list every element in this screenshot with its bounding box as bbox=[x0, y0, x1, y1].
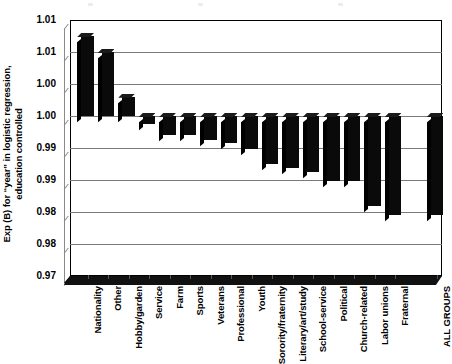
x-axis-tick-labels: NationalityOtherHobby/gardenServiceFarmS… bbox=[64, 286, 442, 360]
x-axis-tick bbox=[129, 275, 130, 279]
bar-side-face bbox=[282, 119, 286, 175]
bar-side-face bbox=[385, 119, 389, 221]
bar-top-face bbox=[344, 113, 361, 117]
x-axis-tick bbox=[190, 275, 191, 279]
bar bbox=[327, 116, 340, 181]
bar-top-face bbox=[385, 113, 402, 117]
y-axis-depth-tick bbox=[64, 184, 69, 190]
y-axis-tick-label: 1.01 bbox=[37, 47, 56, 57]
bar bbox=[143, 116, 156, 124]
y-axis-depth-tick bbox=[64, 120, 69, 126]
y-axis-tick-label: 0.99 bbox=[37, 175, 56, 185]
x-axis-tick-label: Professional bbox=[235, 286, 246, 342]
x-axis-tick bbox=[354, 275, 355, 279]
bar-side-face bbox=[427, 119, 431, 221]
x-axis-tick-label: School-service bbox=[317, 286, 328, 352]
x-axis-tick-label: Church-related bbox=[358, 286, 369, 352]
x-axis-tick bbox=[272, 275, 273, 279]
x-axis-tick bbox=[252, 275, 253, 279]
x-axis-tick-label: Literary/art/study bbox=[297, 286, 308, 362]
x-axis-tick bbox=[293, 275, 294, 279]
bar-side-face bbox=[180, 119, 184, 141]
x-axis-tick bbox=[437, 275, 438, 279]
bar-top-face bbox=[118, 94, 135, 98]
bar-top-face bbox=[427, 113, 444, 117]
bar-side-face bbox=[221, 119, 225, 149]
bar bbox=[266, 116, 279, 164]
bar-side-face bbox=[77, 39, 81, 122]
bar-top-face bbox=[159, 113, 176, 117]
bar-side-face bbox=[344, 119, 348, 187]
bar bbox=[286, 116, 299, 168]
bar bbox=[389, 116, 402, 215]
x-axis-tick bbox=[170, 275, 171, 279]
x-axis-tick-label: Political bbox=[338, 286, 349, 322]
x-axis-tick-label: Farm bbox=[174, 286, 185, 309]
y-axis-depth-tick bbox=[64, 248, 69, 254]
y-axis-title: Exp (B) for “year” in logistic regressio… bbox=[0, 18, 26, 290]
bar-top-face bbox=[139, 113, 156, 117]
bar bbox=[204, 116, 217, 140]
bar-side-face bbox=[364, 119, 368, 212]
bar-side-face bbox=[241, 119, 245, 155]
y-axis-depth-tick bbox=[64, 88, 69, 94]
x-axis-tick bbox=[334, 275, 335, 279]
plot-area bbox=[64, 20, 442, 285]
x-axis-tick-label: Nationality bbox=[92, 286, 103, 333]
bar bbox=[184, 116, 197, 135]
x-axis-tick bbox=[395, 275, 396, 279]
x-axis-tick-label: Labor unions bbox=[379, 286, 390, 345]
bar-top-face bbox=[200, 113, 217, 117]
bar-side-face bbox=[98, 55, 102, 122]
bar-side-face bbox=[139, 119, 143, 130]
x-axis-tick-label: Sports bbox=[194, 286, 205, 316]
y-axis-depth-tick bbox=[64, 152, 69, 158]
bar-top-face bbox=[282, 113, 299, 117]
bar-side-face bbox=[200, 119, 204, 146]
bar-top-face bbox=[262, 113, 279, 117]
y-axis-tick-label: 1.00 bbox=[37, 111, 56, 121]
y-axis-tick-label: 0.99 bbox=[37, 143, 56, 153]
bar-side-face bbox=[303, 119, 307, 178]
y-axis-title-line1: Exp (B) for “year” in logistic regressio… bbox=[1, 66, 12, 243]
y-axis-depth-tick bbox=[64, 24, 69, 30]
bar-top-face bbox=[180, 113, 197, 117]
x-axis-baseline bbox=[64, 276, 442, 285]
x-axis-tick-label: Hobby/garden bbox=[133, 286, 144, 349]
x-axis-tick-label: Fraternal bbox=[399, 286, 410, 326]
y-axis-depth-tick bbox=[64, 56, 69, 62]
bar-side-face bbox=[159, 119, 163, 141]
x-axis-tick bbox=[88, 275, 89, 279]
bar bbox=[307, 116, 320, 172]
bar bbox=[122, 97, 135, 116]
top-cropped-artifact bbox=[70, 1, 440, 9]
bar bbox=[368, 116, 381, 206]
bar-top-face bbox=[221, 113, 238, 117]
x-axis-tick bbox=[313, 275, 314, 279]
bar-side-face bbox=[118, 100, 122, 122]
bar bbox=[431, 116, 444, 215]
bar-top-face bbox=[77, 33, 94, 37]
bar bbox=[225, 116, 238, 143]
bar bbox=[81, 36, 94, 116]
x-axis-tick bbox=[211, 275, 212, 279]
y-axis-tick-label: 0.98 bbox=[37, 207, 56, 217]
y-axis-tick-label: 1.01 bbox=[37, 15, 56, 25]
y-axis-tick-labels: 1.011.011.001.000.990.990.980.980.97 bbox=[26, 18, 59, 290]
y-axis-depth-tick bbox=[64, 216, 69, 222]
bar-top-face bbox=[323, 113, 340, 117]
bar bbox=[348, 116, 361, 181]
x-axis-tick-label: ALL GROUPS bbox=[441, 286, 452, 347]
bar-top-face bbox=[241, 113, 258, 117]
y-axis-tick-label: 1.00 bbox=[37, 79, 56, 89]
x-axis-tick bbox=[149, 275, 150, 279]
y-axis-title-line2: education controlled bbox=[13, 66, 25, 243]
x-axis-tick-label: Service bbox=[153, 286, 164, 319]
x-axis-tick-label: Other bbox=[112, 286, 123, 311]
x-axis-tick-label: Youth bbox=[256, 286, 267, 312]
bar bbox=[245, 116, 258, 149]
bar-top-face bbox=[303, 113, 320, 117]
x-axis-tick bbox=[231, 275, 232, 279]
bar-side-face bbox=[323, 119, 327, 187]
